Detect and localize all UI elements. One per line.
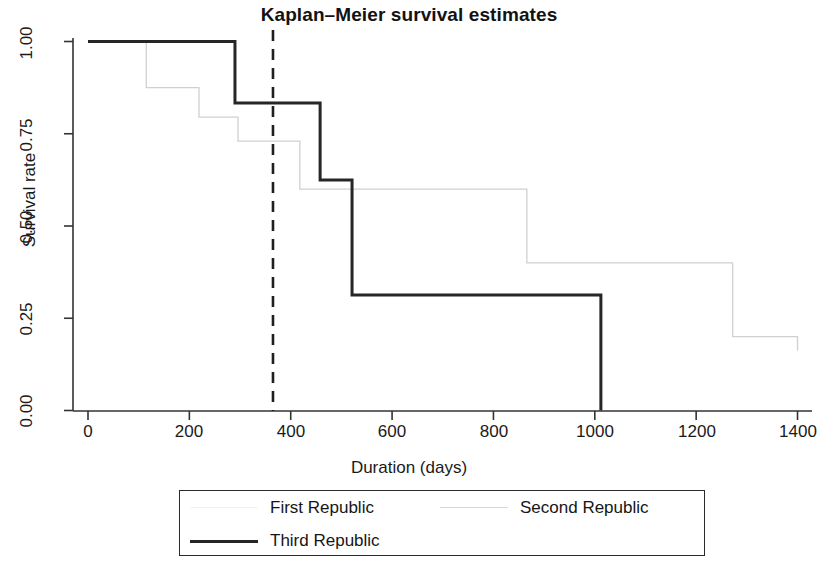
y-axis-ticks (64, 42, 73, 411)
series-line-second-republic (88, 42, 798, 351)
legend-entry-first-republic: First Republic (188, 491, 374, 524)
second-republic-line-icon (438, 501, 510, 515)
x-axis-ticks (88, 411, 798, 420)
legend-entry-second-republic: Second Republic (438, 491, 649, 524)
third-republic-line-icon (188, 534, 260, 548)
axis-lines (64, 38, 812, 420)
kaplan-meier-figure: Kaplan–Meier survival estimates Survival… (0, 0, 818, 564)
legend-label: Second Republic (510, 498, 649, 518)
plot-area (0, 0, 818, 564)
legend-label: Third Republic (260, 531, 380, 551)
chart-legend: First Republic Second Republic Third Rep… (179, 490, 705, 556)
legend-label: First Republic (260, 498, 374, 518)
legend-row: Third Republic (180, 524, 704, 557)
first-republic-line-icon (188, 501, 260, 515)
legend-entry-third-republic: Third Republic (188, 524, 380, 557)
series-layer (88, 42, 798, 411)
legend-row: First Republic Second Republic (180, 491, 704, 524)
series-line-third-republic (88, 42, 601, 411)
